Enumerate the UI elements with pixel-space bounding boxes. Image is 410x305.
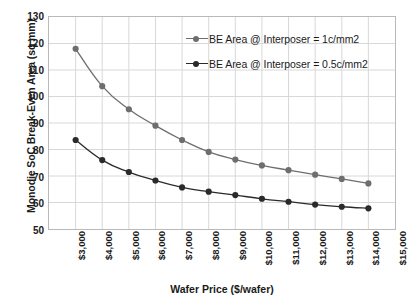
- series-line: [76, 140, 369, 208]
- legend-marker-icon: [186, 59, 208, 69]
- legend-dot-icon: [193, 61, 199, 67]
- data-point-marker[interactable]: [99, 157, 105, 163]
- data-point-marker[interactable]: [312, 172, 318, 178]
- x-tick-label: $10,000: [263, 231, 274, 287]
- legend-item-label: BE Area @ Interposer = 0.5c/mm2: [209, 58, 368, 70]
- x-tick-label: $5,000: [130, 231, 141, 287]
- x-tick-label: $4,000: [103, 231, 114, 287]
- x-axis-title: Wafer Price ($/wafer): [48, 283, 396, 295]
- data-point-marker[interactable]: [339, 176, 345, 182]
- chart-container: Monodie SoC Break-Even Area (sq mm) 5060…: [0, 0, 410, 305]
- x-tick-label: $12,000: [317, 231, 328, 287]
- y-tick-label: 60: [18, 198, 44, 209]
- data-point-marker[interactable]: [232, 192, 238, 198]
- data-point-marker[interactable]: [99, 83, 105, 89]
- legend-item[interactable]: BE Area @ Interposer = 0.5c/mm2: [186, 51, 401, 76]
- legend-item-label: BE Area @ Interposer = 1c/mm2: [209, 33, 359, 45]
- y-tick-label: 70: [18, 171, 44, 182]
- data-point-marker[interactable]: [206, 149, 212, 155]
- y-tick-label: 110: [18, 64, 44, 75]
- y-tick-label: 100: [18, 91, 44, 102]
- x-axis-tick-labels: $3,000$4,000$5,000$6,000$7,000$8,000$9,0…: [48, 231, 396, 279]
- data-point-marker[interactable]: [365, 205, 371, 211]
- data-point-marker[interactable]: [285, 199, 291, 205]
- y-tick-label: 90: [18, 118, 44, 129]
- data-point-marker[interactable]: [152, 177, 158, 183]
- data-point-marker[interactable]: [365, 180, 371, 186]
- x-tick-label: $6,000: [156, 231, 167, 287]
- y-tick-label: 120: [18, 37, 44, 48]
- x-tick-label: $13,000: [344, 231, 355, 287]
- legend-item[interactable]: BE Area @ Interposer = 1c/mm2: [186, 26, 401, 51]
- data-point-marker[interactable]: [232, 156, 238, 162]
- y-tick-label: 80: [18, 144, 44, 155]
- legend-marker-icon: [186, 34, 208, 44]
- data-point-marker[interactable]: [152, 123, 158, 129]
- chart-legend: BE Area @ Interposer = 1c/mm2 BE Area @ …: [186, 26, 401, 76]
- data-point-marker[interactable]: [285, 167, 291, 173]
- data-point-marker[interactable]: [73, 137, 79, 143]
- x-tick-label: $8,000: [210, 231, 221, 287]
- data-point-marker[interactable]: [73, 46, 79, 52]
- x-tick-label: $7,000: [183, 231, 194, 287]
- y-tick-label: 50: [18, 225, 44, 236]
- data-point-marker[interactable]: [339, 204, 345, 210]
- data-point-marker[interactable]: [312, 202, 318, 208]
- series-1: [73, 137, 372, 212]
- x-tick-label: $3,000: [76, 231, 87, 287]
- x-tick-label: $11,000: [290, 231, 301, 287]
- x-tick-label: $9,000: [237, 231, 248, 287]
- data-point-marker[interactable]: [126, 106, 132, 112]
- y-axis-tick-labels: 5060708090100110120130: [18, 16, 44, 230]
- data-point-marker[interactable]: [259, 196, 265, 202]
- data-point-marker[interactable]: [259, 162, 265, 168]
- x-tick-label: $14,000: [370, 231, 381, 287]
- x-tick-label: $15,000: [397, 231, 408, 287]
- data-point-marker[interactable]: [179, 184, 185, 190]
- data-point-marker[interactable]: [206, 189, 212, 195]
- data-point-marker[interactable]: [179, 137, 185, 143]
- data-point-marker[interactable]: [126, 169, 132, 175]
- y-tick-label: 130: [18, 11, 44, 22]
- legend-dot-icon: [193, 36, 199, 42]
